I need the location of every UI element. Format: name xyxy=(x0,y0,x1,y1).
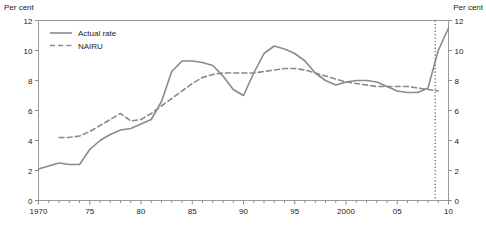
line-chart-plot: 1970758085909520000510 024681012 0246810… xyxy=(0,0,486,225)
x-tick-label: 2000 xyxy=(337,207,355,216)
y-tick-label-right: 6 xyxy=(455,107,460,116)
y-axis-ticks-right xyxy=(449,21,453,201)
x-tick-label: 85 xyxy=(188,207,197,216)
y-tick-label-left: 2 xyxy=(28,167,33,176)
chart-container: Per cent Per cent 1970758085909520000510… xyxy=(0,0,486,225)
x-tick-label: 80 xyxy=(137,207,146,216)
y-tick-label-left: 8 xyxy=(28,77,33,86)
y-tick-label-left: 4 xyxy=(28,137,33,146)
x-tick-label: 10 xyxy=(444,207,453,216)
y-tick-label-right: 8 xyxy=(455,77,460,86)
x-axis-tick-labels: 1970758085909520000510 xyxy=(30,207,454,216)
y-axis-tick-labels-right: 024681012 xyxy=(455,17,464,206)
y-tick-label-right: 12 xyxy=(455,17,464,26)
legend-label-nairu: NAIRU xyxy=(78,42,103,51)
y-tick-label-left: 0 xyxy=(28,197,33,206)
y-tick-label-left: 10 xyxy=(24,47,33,56)
series-line-nairu xyxy=(59,69,438,138)
y-axis-tick-labels-left: 024681012 xyxy=(24,17,33,206)
legend-label-actual-rate: Actual rate xyxy=(78,29,117,38)
x-tick-label: 90 xyxy=(239,207,248,216)
y-tick-label-right: 2 xyxy=(455,167,460,176)
y-tick-label-left: 6 xyxy=(28,107,33,116)
chart-legend: Actual rateNAIRU xyxy=(50,29,117,51)
x-tick-label: 05 xyxy=(393,207,402,216)
y-tick-label-right: 0 xyxy=(455,197,460,206)
y-tick-label-right: 10 xyxy=(455,47,464,56)
y-tick-label-left: 12 xyxy=(24,17,33,26)
y-axis-ticks-left xyxy=(35,21,39,201)
y-tick-label-right: 4 xyxy=(455,137,460,146)
x-tick-label: 95 xyxy=(290,207,299,216)
x-tick-label: 1970 xyxy=(30,207,48,216)
x-tick-label: 75 xyxy=(85,207,94,216)
